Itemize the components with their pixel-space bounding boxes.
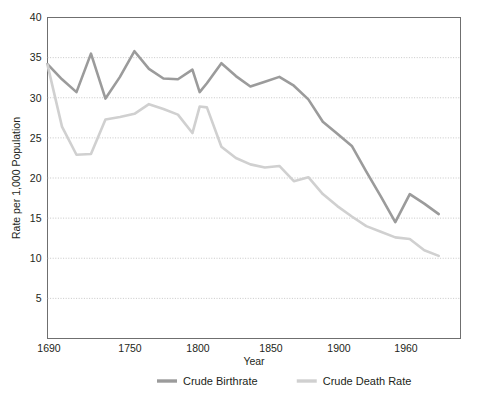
y-tick-label-25: 25: [30, 132, 42, 144]
y-axis-ticks: 403530252015105: [30, 11, 42, 304]
x-tick-label-1800: 1800: [186, 342, 210, 354]
y-tick-label-40: 40: [30, 11, 42, 23]
y-tick-label-35: 35: [30, 51, 42, 63]
chart-legend: Crude BirthrateCrude Death Rate: [157, 375, 411, 387]
series-line-birthrate: [48, 51, 439, 222]
x-axis-title: Year: [243, 355, 265, 367]
y-tick-label-5: 5: [36, 292, 42, 304]
y-tick-label-20: 20: [30, 172, 42, 184]
x-tick-label-1690: 1690: [37, 342, 61, 354]
y-axis-title: Rate per 1,000 Population: [10, 117, 22, 239]
x-tick-label-1850: 1850: [259, 342, 283, 354]
y-tick-label-15: 15: [30, 212, 42, 224]
y-tick-label-10: 10: [30, 252, 42, 264]
x-tick-label-1900: 1900: [327, 342, 351, 354]
chart-canvas: 403530252015105 169017501800185019001960…: [0, 0, 479, 409]
series-lines: [48, 51, 439, 256]
line-chart-figure: 403530252015105 169017501800185019001960…: [0, 0, 479, 409]
legend-label-1: Crude Death Rate: [323, 375, 412, 387]
x-tick-label-1960: 1960: [394, 342, 418, 354]
series-line-death-rate: [48, 65, 439, 256]
y-tick-label-30: 30: [30, 92, 42, 104]
x-axis-ticks: 169017501800185019001960: [37, 342, 418, 354]
x-tick-label-1750: 1750: [118, 342, 142, 354]
legend-label-0: Crude Birthrate: [183, 375, 258, 387]
